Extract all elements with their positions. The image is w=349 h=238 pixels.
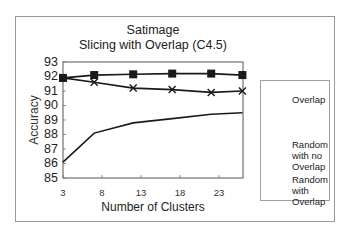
legend-label-line: Random: [292, 174, 332, 185]
legend-label-line: Random: [292, 139, 332, 150]
legend-label: RandomwithOverlap: [292, 174, 332, 207]
square-marker: [168, 70, 176, 78]
legend-label-line: Overlap: [292, 161, 332, 172]
series-line-overlap: [63, 113, 242, 162]
legend-label: Overlap: [292, 94, 332, 105]
square-marker: [90, 71, 98, 79]
square-marker: [59, 74, 67, 82]
square-marker: [238, 71, 246, 79]
legend-label-line: Overlap: [292, 94, 332, 105]
legend-label-line: Overlap: [292, 196, 332, 207]
series-line-random-with-no-overlap: [63, 78, 242, 93]
series-line-random-with-overlap: [63, 74, 242, 78]
legend-label: Randomwith noOverlap: [292, 139, 332, 172]
legend-label-line: with no: [292, 150, 332, 161]
square-marker: [129, 70, 137, 78]
square-marker: [207, 70, 215, 78]
legend-label-line: with: [292, 185, 332, 196]
